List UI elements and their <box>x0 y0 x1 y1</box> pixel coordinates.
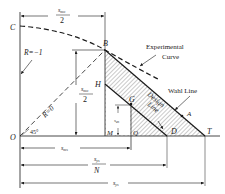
experimental-leader <box>140 55 156 66</box>
sys-label: sys <box>113 180 119 187</box>
goodman-diagram: smo 2 smo 2 sas sms sys N sys C B H G A … <box>0 0 225 194</box>
label-Q: Q <box>133 129 138 137</box>
wahl-label: Wahl Line <box>168 87 197 95</box>
r-neg1-leader <box>21 60 32 74</box>
left-dim-den: 2 <box>83 95 87 104</box>
label-H: H <box>94 80 102 89</box>
label-M: M <box>106 129 114 137</box>
experimental-label-2: Curve <box>162 53 179 61</box>
sms-label: sms <box>61 145 68 152</box>
label-C: C <box>10 23 16 32</box>
r-zero-line <box>20 50 105 136</box>
diagram-canvas: smo 2 smo 2 sas sms sys N sys C B H G A … <box>0 0 225 194</box>
angle-label: 45° <box>30 129 39 135</box>
r-zero-label: R=0 <box>39 103 56 120</box>
top-dim-num: smo <box>58 7 65 14</box>
wahl-leader <box>175 96 190 110</box>
left-dim-num: smo <box>81 86 88 93</box>
point-A <box>181 115 184 118</box>
label-T: T <box>207 127 212 136</box>
label-B: B <box>103 39 108 48</box>
sysN-den: N <box>93 166 100 175</box>
label-O: O <box>10 133 16 142</box>
label-G: G <box>129 95 135 104</box>
label-A: A <box>186 110 192 118</box>
label-D: D <box>170 127 177 136</box>
experimental-label-1: Experimental <box>146 43 184 51</box>
top-dim-den: 2 <box>60 16 64 25</box>
r-neg1-label: R=−1 <box>23 48 42 57</box>
sysN-num: sys <box>94 156 100 163</box>
